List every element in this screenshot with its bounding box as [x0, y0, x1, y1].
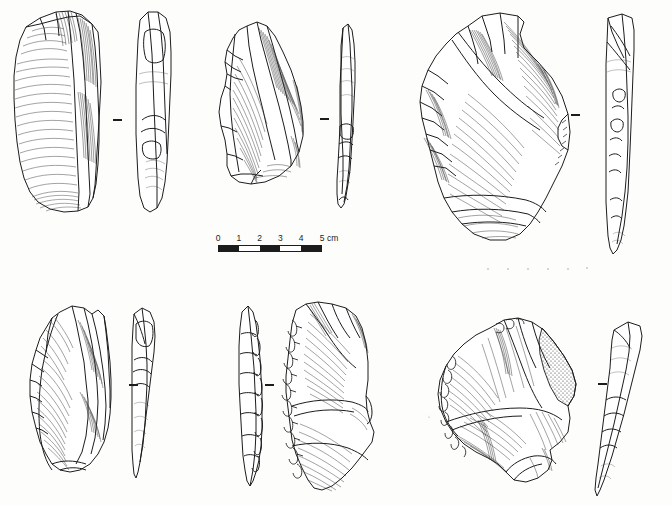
scale-label-3: 3 — [278, 233, 283, 243]
artifact-3-profile-view — [606, 14, 634, 254]
scan-speckle — [527, 268, 529, 270]
artifact-6-view-separator — [598, 383, 607, 385]
artifact-2-view-separator — [320, 118, 329, 120]
scan-speckle — [507, 268, 509, 270]
scale-segment-1 — [219, 246, 239, 251]
scale-label-2: 2 — [257, 233, 262, 243]
lithic-plate: 0 1 2 3 4 5 cm — [0, 0, 672, 506]
artifact-4 — [18, 300, 178, 490]
artifact-5-profile-view — [239, 306, 263, 486]
artifact-1-profile-view — [136, 12, 171, 212]
artifact-6 — [418, 308, 668, 506]
scale-label-0: 0 — [216, 233, 221, 243]
scale-segment-2 — [239, 246, 259, 251]
scale-label-5: 5 — [320, 233, 325, 243]
scale-bar-segments — [218, 245, 322, 252]
artifact-2-profile-view — [337, 24, 355, 208]
scale-bar-labels: 0 1 2 3 4 5 cm — [218, 233, 322, 245]
scale-label-1: 1 — [236, 233, 241, 243]
scan-mark: ʻ — [428, 415, 430, 425]
artifact-6-profile-view — [595, 322, 642, 496]
artifact-4-profile-view — [132, 308, 155, 478]
artifact-3 — [408, 4, 666, 270]
scan-speckle — [567, 268, 569, 270]
scale-segment-5 — [301, 246, 321, 251]
artifact-4-view-separator — [129, 384, 138, 386]
scan-speckle — [586, 267, 588, 269]
artifact-2 — [205, 18, 375, 218]
scan-speckle — [487, 268, 489, 270]
artifact-1 — [0, 2, 190, 230]
scan-speckle — [547, 268, 549, 270]
scale-segment-4 — [280, 246, 300, 251]
artifact-2-main-view — [219, 22, 303, 184]
artifact-1-view-separator — [113, 119, 122, 121]
scale-unit-label: cm — [327, 233, 338, 243]
artifact-3-view-separator — [571, 114, 580, 116]
scale-bar: 0 1 2 3 4 5 cm — [218, 233, 322, 252]
artifact-3-main-view — [420, 13, 570, 240]
scale-segment-3 — [260, 246, 280, 251]
artifact-4-main-view — [30, 306, 111, 472]
artifact-5 — [222, 296, 402, 496]
scale-label-4: 4 — [299, 233, 304, 243]
artifact-5-view-separator — [265, 384, 274, 386]
